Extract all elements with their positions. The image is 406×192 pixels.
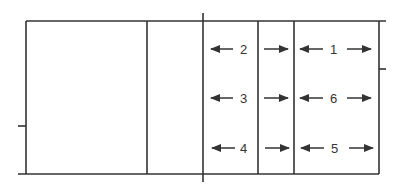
position-label: 4	[240, 141, 247, 156]
position-label: 2	[240, 42, 247, 57]
position-label: 1	[330, 42, 337, 57]
position-label: 5	[331, 141, 338, 156]
position-label: 3	[240, 91, 247, 106]
court-diagram: 2 3 4 1 6 5	[0, 0, 406, 192]
position-label: 6	[330, 91, 337, 106]
